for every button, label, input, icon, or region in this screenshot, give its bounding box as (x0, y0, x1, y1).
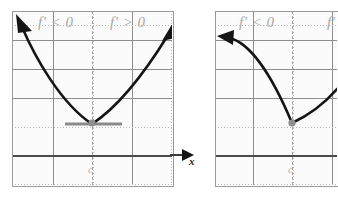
label-f-prime-negative: f' < 0 (38, 14, 74, 31)
label-x-axis: x (189, 155, 195, 167)
curve-arrowhead-left (16, 14, 32, 33)
function-curve-decreasing-branch (229, 38, 292, 123)
label-f-prime-clipped: f' (327, 14, 335, 31)
function-curve-increasing-branch (292, 89, 337, 123)
label-critical-value-c: c (88, 163, 93, 175)
label-critical-value-c: c (288, 163, 293, 175)
curve-arrowhead-left (217, 30, 234, 45)
curve-arrowhead-right (162, 21, 172, 41)
minimum-point-marker (88, 119, 95, 126)
panel-right-plot (215, 11, 337, 185)
minimum-point-marker (288, 119, 295, 126)
label-f-prime-negative: f' < 0 (239, 14, 275, 31)
label-f-prime-positive: f' > 0 (110, 14, 146, 31)
function-curve-parabola (22, 27, 168, 124)
panel-right: f' < 0 f' c (215, 11, 337, 185)
panel-left-plot (12, 11, 172, 185)
x-axis-arrow-group (170, 146, 200, 166)
panel-left: f' < 0 f' > 0 c (12, 11, 172, 185)
